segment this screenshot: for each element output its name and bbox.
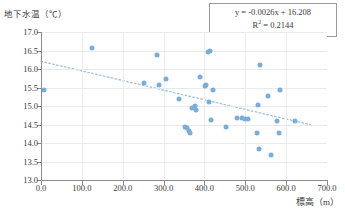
x-axis-tick-label: 0.0 xyxy=(36,184,47,193)
y-axis-tick-label: 16.0 xyxy=(23,65,38,74)
x-axis-tick-label: 700.0 xyxy=(317,184,336,193)
regression-equation-text: y = -0.0026x + 16.208 xyxy=(214,7,332,18)
gridline-horizontal xyxy=(41,162,327,163)
x-axis-title: 標高（m） xyxy=(296,198,339,207)
y-axis-title: 地下水温（℃） xyxy=(4,10,67,19)
gridline-vertical xyxy=(164,32,165,180)
r-squared-value: = 0.2144 xyxy=(261,20,293,30)
gridline-horizontal xyxy=(41,32,327,33)
data-point xyxy=(197,75,202,80)
y-axis-tick-labels: 13.013.514.014.515.015.516.016.517.0 xyxy=(0,32,38,180)
x-axis-line xyxy=(41,180,328,181)
x-axis-tick xyxy=(123,181,124,185)
x-axis-tick-label: 600.0 xyxy=(277,184,296,193)
gridline-vertical xyxy=(286,32,287,180)
data-point xyxy=(293,119,298,124)
x-axis-tick-label: 500.0 xyxy=(236,184,255,193)
data-point xyxy=(141,81,146,86)
data-point xyxy=(194,107,199,112)
x-axis-tick-label: 300.0 xyxy=(154,184,173,193)
y-axis-line xyxy=(41,32,42,181)
data-point xyxy=(245,116,250,121)
y-axis-tick-label: 14.0 xyxy=(23,139,38,148)
data-point xyxy=(207,99,212,104)
x-axis-tick-label: 400.0 xyxy=(195,184,214,193)
gridline-vertical xyxy=(245,32,246,180)
data-point xyxy=(156,82,161,87)
gridline-horizontal xyxy=(41,69,327,70)
x-axis-tick xyxy=(41,181,42,185)
data-point xyxy=(278,87,283,92)
data-point xyxy=(154,53,159,58)
data-point xyxy=(223,125,228,130)
x-axis-tick xyxy=(164,181,165,185)
y-axis-tick-label: 14.5 xyxy=(23,120,38,129)
data-point xyxy=(90,46,95,51)
data-point xyxy=(42,88,47,93)
data-point xyxy=(208,48,213,53)
data-point xyxy=(277,130,282,135)
y-axis-tick-label: 13.5 xyxy=(23,157,38,166)
plot-area xyxy=(41,32,327,180)
data-point xyxy=(268,152,273,157)
data-point xyxy=(258,62,263,67)
x-axis-tick xyxy=(204,181,205,185)
data-point xyxy=(204,83,209,88)
gridline-vertical xyxy=(123,32,124,180)
data-point xyxy=(266,93,271,98)
y-axis-tick-label: 15.5 xyxy=(23,83,38,92)
x-axis-tick-label: 200.0 xyxy=(113,184,132,193)
r-squared-text: R2 = 0.2144 xyxy=(214,18,332,31)
gridline-horizontal xyxy=(41,143,327,144)
data-point xyxy=(275,118,280,123)
gridline-horizontal xyxy=(41,88,327,89)
y-axis-tick-label: 17.0 xyxy=(23,28,38,37)
data-point xyxy=(257,146,262,151)
gridline-horizontal xyxy=(41,106,327,107)
gridline-vertical xyxy=(82,32,83,180)
data-point xyxy=(211,87,216,92)
data-point xyxy=(208,118,213,123)
x-axis-tick xyxy=(327,181,328,185)
x-axis-tick xyxy=(82,181,83,185)
data-point xyxy=(256,102,261,107)
y-axis-tick-label: 15.0 xyxy=(23,102,38,111)
data-point xyxy=(163,76,168,81)
x-axis-tick-labels: 0.0100.0200.0300.0400.0500.0600.0700.0 xyxy=(41,184,328,196)
x-axis-tick xyxy=(245,181,246,185)
x-axis-tick xyxy=(286,181,287,185)
data-point xyxy=(254,130,259,135)
gridline-horizontal xyxy=(41,51,327,52)
y-axis-tick-label: 16.5 xyxy=(23,46,38,55)
scatter-chart: 地下水温（℃） y = -0.0026x + 16.208 R2 = 0.214… xyxy=(0,0,345,215)
data-point xyxy=(187,130,192,135)
x-axis-tick-label: 100.0 xyxy=(72,184,91,193)
data-point xyxy=(177,96,182,101)
